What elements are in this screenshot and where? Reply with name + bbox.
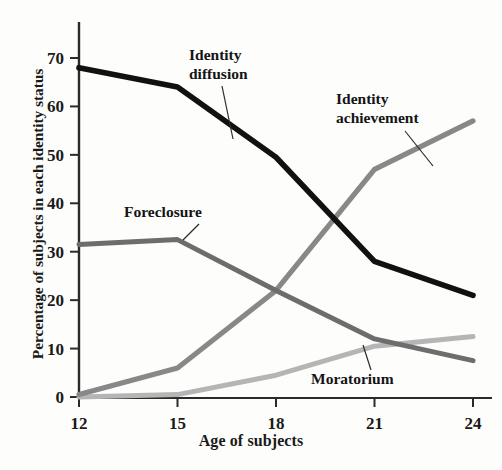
leader-line	[183, 224, 199, 240]
chart-canvas: 010203040506070 1215182124 Identity diff…	[0, 0, 502, 470]
y-axis-title: Percentage of subjects in each identity …	[29, 34, 47, 394]
leader-line-group	[183, 86, 433, 370]
y-tick-label: 70	[47, 49, 64, 68]
y-tick-group: 010203040506070	[47, 49, 79, 407]
annotation-identity-diffusion: Identity diffusion	[189, 46, 248, 82]
y-tick-label: 40	[47, 194, 64, 213]
y-tick-label: 10	[47, 340, 64, 359]
series-line-identity-diffusion	[79, 68, 473, 296]
annotation-moratorium-label: Moratorium	[311, 370, 394, 387]
x-tick-label: 15	[169, 414, 186, 433]
series-line-identity-achievement	[79, 121, 473, 395]
x-tick-label: 18	[268, 414, 285, 433]
annotation-identity-achievement: Identity achievement	[336, 90, 419, 126]
leader-line	[405, 131, 433, 166]
y-tick-label: 20	[47, 291, 64, 310]
x-tick-group: 1215182124	[71, 398, 483, 433]
x-tick-label: 21	[366, 414, 383, 433]
annotation-identity-achievement-line1: Identity	[336, 90, 389, 107]
y-tick-label: 60	[47, 97, 64, 116]
y-tick-label: 0	[56, 388, 65, 407]
y-tick-label: 30	[47, 243, 64, 262]
annotation-identity-diffusion-line1: Identity	[189, 46, 242, 63]
x-tick-label: 24	[465, 414, 483, 433]
annotation-foreclosure-label: Foreclosure	[124, 203, 202, 220]
annotation-identity-achievement-line2: achievement	[336, 109, 419, 126]
x-tick-label: 12	[71, 414, 88, 433]
line-chart: 010203040506070 1215182124 Identity diff…	[0, 0, 502, 470]
y-tick-label: 50	[47, 146, 64, 165]
annotation-moratorium: Moratorium	[311, 370, 394, 387]
annotation-identity-diffusion-line2: diffusion	[189, 65, 248, 82]
annotation-foreclosure: Foreclosure	[124, 203, 202, 220]
x-axis-title: Age of subjects	[0, 432, 502, 450]
leader-line	[222, 86, 233, 139]
